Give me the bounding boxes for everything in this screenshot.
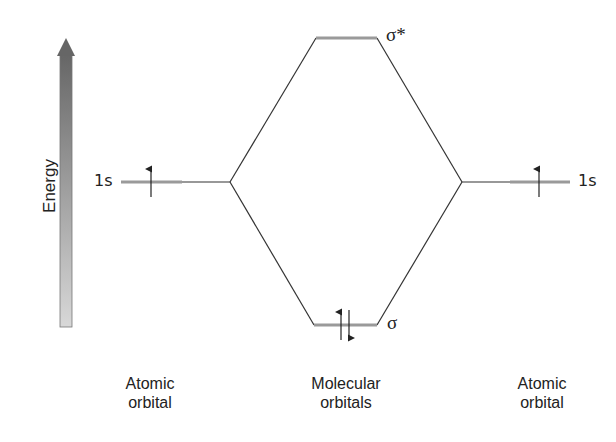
right-1s-label: 1s <box>578 171 597 190</box>
electrons <box>151 169 539 340</box>
sigma-star-label: σ* <box>386 24 406 46</box>
center-caption: Molecular orbitals <box>286 374 406 412</box>
sigma-label: σ <box>387 312 397 334</box>
left-1s-label: 1s <box>94 171 113 190</box>
left-caption: Atomic orbital <box>100 374 200 412</box>
right-caption: Atomic orbital <box>492 374 592 412</box>
energy-axis-label: Energy <box>40 146 60 226</box>
correlation-lines <box>182 38 510 325</box>
